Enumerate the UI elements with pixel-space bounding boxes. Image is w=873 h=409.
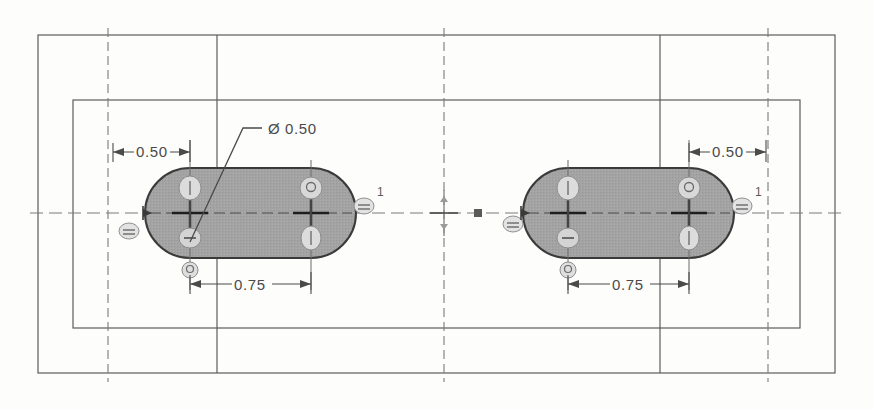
right-offset-dimension-text: 0.50 (712, 143, 744, 160)
balloon-right-label: 1 (755, 185, 762, 199)
slot-left[interactable]: 1 (119, 140, 384, 290)
balloon-left[interactable] (119, 223, 139, 239)
left-pitch-dimension-text: 0.75 (234, 276, 266, 293)
relation-lower-left[interactable] (179, 228, 201, 248)
slot-right[interactable]: 1 (503, 140, 762, 290)
balloon-right[interactable]: 1 (732, 185, 762, 214)
diameter-callout-text: Ø 0.50 (268, 120, 317, 137)
relation-upper-right[interactable] (300, 177, 322, 199)
sketch-origin[interactable] (430, 190, 458, 236)
left-pitch-dimension[interactable]: 0.75 (190, 272, 311, 294)
relation-upper-right[interactable] (678, 177, 700, 199)
relation-upper-left[interactable] (557, 176, 579, 200)
right-pitch-dimension-text: 0.75 (612, 276, 644, 293)
arrow-right (179, 148, 190, 156)
arrow-left (113, 148, 124, 156)
left-offset-dimension[interactable]: 0.50 (113, 140, 190, 162)
balloon-left[interactable] (503, 216, 523, 232)
relation-lower-left[interactable] (557, 228, 579, 248)
relation-lower-right[interactable] (679, 226, 699, 250)
drawing-canvas: 1 (0, 0, 873, 409)
balloon-right[interactable]: 1 (354, 185, 384, 214)
midpoint-marker[interactable] (474, 209, 482, 217)
right-offset-dimension[interactable]: 0.50 (689, 140, 766, 162)
relation-upper-left[interactable] (179, 176, 201, 200)
left-offset-dimension-text: 0.50 (136, 143, 168, 160)
right-pitch-dimension[interactable]: 0.75 (568, 272, 689, 294)
balloon-right-label: 1 (377, 185, 384, 199)
relation-lower-right[interactable] (301, 226, 321, 250)
